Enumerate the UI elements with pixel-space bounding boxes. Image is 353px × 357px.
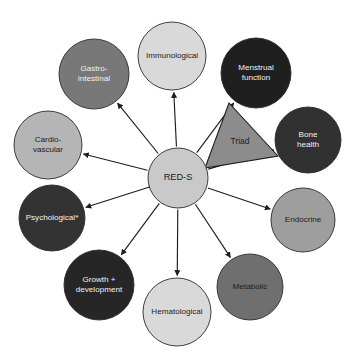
node-label-psychological: Psychological* <box>26 213 79 222</box>
node-label-cardio-vascular: vascular <box>33 145 63 154</box>
edge-red-s-to-gastro-intestinal <box>118 103 159 153</box>
node-label-gastro-intestinal: Gastro- <box>81 64 108 73</box>
triad-label: Triad <box>231 136 250 146</box>
node-label-gastro-intestinal: intestinal <box>78 74 110 83</box>
edge-red-s-to-endocrine <box>208 188 270 209</box>
node-endocrine[interactable]: Endocrine <box>271 188 335 252</box>
figure-root: Triad ImmunologicalMenstrualfunctionBone… <box>0 0 353 357</box>
edge-red-s-to-cardio-vascular <box>83 154 147 170</box>
node-label-bone-health: Bone <box>299 130 318 139</box>
node-growth-development[interactable]: Growth +development <box>64 250 134 320</box>
node-red-s[interactable]: RED-S <box>148 148 208 208</box>
edge-red-s-to-growth-development <box>121 203 159 254</box>
node-label-metabolic: Metabolic <box>233 282 268 291</box>
node-label-cardio-vascular: Cardio- <box>35 135 62 144</box>
node-bone-health[interactable]: Bonehealth <box>275 107 341 173</box>
node-label-immunological: Immunological <box>146 51 198 60</box>
edge-red-s-to-psychological <box>86 188 148 208</box>
node-label-menstrual-function: Menstrual <box>238 63 274 72</box>
node-label-hematological: Hematological <box>151 307 202 316</box>
node-label-endocrine: Endocrine <box>285 215 322 224</box>
red-s-radial-diagram: Triad ImmunologicalMenstrualfunctionBone… <box>0 0 353 357</box>
node-label-growth-development: development <box>76 285 123 294</box>
triad-layer: Triad <box>205 103 278 168</box>
node-label-red-s: RED-S <box>164 172 193 182</box>
node-label-bone-health: health <box>297 140 319 149</box>
node-psychological[interactable]: Psychological* <box>19 185 85 251</box>
node-metabolic[interactable]: Metabolic <box>217 254 283 320</box>
node-cardio-vascular[interactable]: Cardio-vascular <box>14 111 82 179</box>
edge-red-s-to-immunological <box>174 92 177 146</box>
node-menstrual-function[interactable]: Menstrualfunction <box>221 38 291 108</box>
node-label-growth-development: Growth + <box>82 275 115 284</box>
node-hematological[interactable]: Hematological <box>143 278 211 346</box>
node-immunological[interactable]: Immunological <box>138 22 206 90</box>
hub-layer: RED-S <box>148 148 208 208</box>
node-gastro-intestinal[interactable]: Gastro-intestinal <box>59 39 129 109</box>
node-label-menstrual-function: function <box>242 73 270 82</box>
edge-red-s-to-metabolic <box>195 204 230 257</box>
